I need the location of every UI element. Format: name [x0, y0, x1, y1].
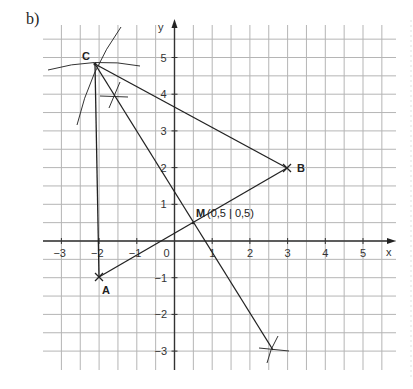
- y-tick-label: −2: [155, 308, 168, 320]
- y-axis-arrow-icon: [172, 19, 178, 28]
- x-axis-label: x: [386, 246, 392, 258]
- point-c-marker: [93, 62, 96, 65]
- y-axis-label: y: [158, 21, 164, 33]
- y-tick-label: 1: [161, 198, 167, 210]
- side-ca: [95, 64, 99, 277]
- x-tick-label: 3: [285, 247, 291, 259]
- x-tick-label: −2: [91, 247, 104, 259]
- construction-arc-bottom-h: [259, 348, 289, 351]
- coordinate-diagram: x y −3−2−101234554321−1−2−3 A B C M (0,5…: [0, 0, 413, 389]
- x-tick-label: 2: [247, 247, 253, 259]
- point-a-label: A: [102, 284, 110, 296]
- grid: [43, 25, 396, 370]
- point-m-coordinates: (0,5 | 0,5): [207, 207, 254, 219]
- y-tick-label: −3: [155, 345, 168, 357]
- point-m-label: M: [196, 207, 205, 219]
- x-axis-arrow-icon: [387, 238, 396, 244]
- y-tick-label: 3: [161, 125, 167, 137]
- x-tick-label: 0: [164, 247, 170, 259]
- x-tick-label: 5: [360, 247, 366, 259]
- y-tick-label: −1: [155, 272, 168, 284]
- x-tick-label: −3: [53, 247, 66, 259]
- y-tick-label: 5: [161, 52, 167, 64]
- y-tick-label: 4: [161, 88, 167, 100]
- side-bc: [95, 64, 287, 168]
- point-b-label: B: [297, 162, 305, 174]
- point-c-label: C: [82, 50, 90, 62]
- x-tick-label: 4: [322, 247, 328, 259]
- point-m-marker: [192, 222, 194, 224]
